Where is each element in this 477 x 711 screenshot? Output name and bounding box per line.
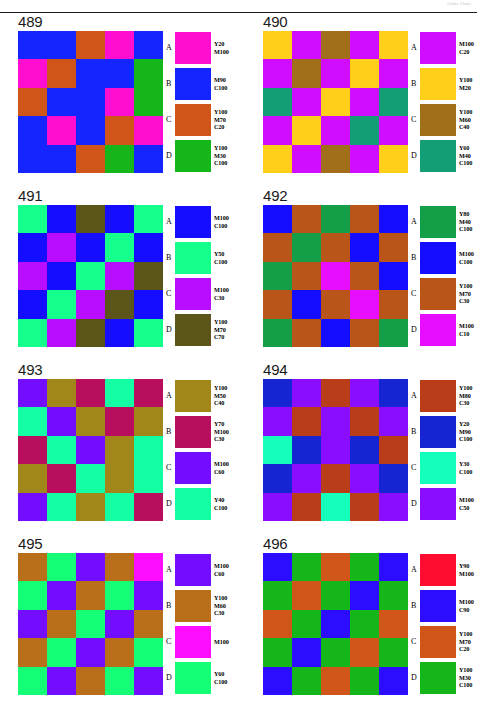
matrix-cell <box>134 553 163 581</box>
legend-ink-values: M90 C100 <box>211 76 232 91</box>
matrix-cell <box>350 436 379 464</box>
legend-ink-values: Y100 M20 <box>456 76 477 91</box>
matrix-cell <box>76 233 105 261</box>
matrix-cell <box>47 610 76 638</box>
panel-number: 496 <box>263 536 287 551</box>
matrix-cell <box>18 581 47 609</box>
matrix-cell <box>379 581 408 609</box>
legend-row-C: CY100 M60 C40 <box>411 103 477 136</box>
legend-swatch <box>420 32 456 64</box>
matrix-cell <box>47 205 76 233</box>
matrix-cell <box>47 88 76 116</box>
legend-swatch <box>175 206 211 238</box>
matrix-cell <box>134 667 163 695</box>
legend-letter: B <box>411 602 420 610</box>
matrix-cell <box>379 262 408 290</box>
legend-letter: A <box>411 44 420 52</box>
matrix-cell <box>134 319 163 347</box>
matrix-cell <box>321 638 350 666</box>
legend-swatch <box>175 68 211 100</box>
legend-ink-values: M100 C100 <box>211 214 232 229</box>
color-panel-494: 494AY100 M80 C30BY20 M90 C100CY30 C100DM… <box>245 362 477 536</box>
matrix-cell <box>321 610 350 638</box>
swatch-legend: AY100 M50 C40BY70 M100 C30CM100 C60DY40 … <box>166 379 232 521</box>
matrix-cell <box>350 205 379 233</box>
legend-swatch <box>175 140 211 172</box>
matrix-cell <box>321 145 350 173</box>
matrix-cell <box>263 59 292 87</box>
matrix-cell <box>105 116 134 144</box>
legend-row-B: BM100 C100 <box>411 241 477 274</box>
matrix-cell <box>76 581 105 609</box>
legend-ink-values: Y30 C100 <box>456 460 477 475</box>
matrix-cell <box>18 493 47 521</box>
matrix-cell <box>47 553 76 581</box>
matrix-cell <box>134 436 163 464</box>
legend-letter: D <box>411 500 420 508</box>
matrix-cell <box>263 379 292 407</box>
matrix-cell <box>105 88 134 116</box>
matrix-cell <box>134 59 163 87</box>
matrix-cell <box>134 88 163 116</box>
matrix-cell <box>321 407 350 435</box>
legend-letter: C <box>166 638 175 646</box>
matrix-cell <box>263 233 292 261</box>
legend-ink-values: M100 C60 <box>211 460 232 475</box>
matrix-cell <box>292 145 321 173</box>
matrix-cell <box>76 667 105 695</box>
matrix-cell <box>47 290 76 318</box>
page-header: Color Chart <box>0 0 477 14</box>
legend-ink-values: Y100 M70 C30 <box>456 282 477 304</box>
matrix-cell <box>292 116 321 144</box>
matrix-cell <box>47 262 76 290</box>
matrix-cell <box>76 31 105 59</box>
color-matrix <box>263 205 408 347</box>
matrix-cell <box>379 116 408 144</box>
legend-row-B: BY70 M100 C30 <box>166 415 232 448</box>
legend-letter: B <box>166 428 175 436</box>
matrix-cell <box>263 667 292 695</box>
legend-swatch <box>420 278 456 310</box>
matrix-cell <box>18 145 47 173</box>
legend-ink-values: M100 C30 <box>211 286 232 301</box>
matrix-cell <box>18 464 47 492</box>
matrix-cell <box>379 379 408 407</box>
matrix-cell <box>105 262 134 290</box>
matrix-cell <box>321 436 350 464</box>
matrix-cell <box>350 667 379 695</box>
swatch-legend: AM100 C60BY100 M60 C30CM100DY60 C100 <box>166 553 232 695</box>
matrix-cell <box>105 667 134 695</box>
legend-swatch <box>420 380 456 412</box>
legend-row-A: AY20 M100 <box>166 31 232 64</box>
matrix-cell <box>379 88 408 116</box>
color-matrix <box>18 553 163 695</box>
matrix-cell <box>263 145 292 173</box>
matrix-cell <box>263 493 292 521</box>
color-matrix <box>263 31 408 173</box>
legend-ink-values: Y100 M70 C20 <box>211 108 232 130</box>
matrix-cell <box>134 116 163 144</box>
matrix-cell <box>76 116 105 144</box>
swatch-legend: AM100 C100BY50 C100CM100 C30DY100 M70 C7… <box>166 205 232 347</box>
legend-row-A: AY100 M50 C40 <box>166 379 232 412</box>
matrix-cell <box>292 379 321 407</box>
color-matrix <box>263 553 408 695</box>
legend-row-A: AM100 C20 <box>411 31 477 64</box>
matrix-cell <box>379 638 408 666</box>
matrix-cell <box>47 407 76 435</box>
matrix-cell <box>134 205 163 233</box>
legend-swatch <box>175 380 211 412</box>
matrix-cell <box>263 262 292 290</box>
swatch-legend: AY100 M80 C30BY20 M90 C100CY30 C100DM100… <box>411 379 477 521</box>
matrix-cell <box>76 553 105 581</box>
legend-letter: C <box>411 290 420 298</box>
legend-ink-values: Y100 M80 C30 <box>456 384 477 406</box>
matrix-cell <box>350 610 379 638</box>
color-panel-496: 496AY90 M100BM100 C90CY100 M70 C20DY100 … <box>245 536 477 710</box>
matrix-cell <box>134 581 163 609</box>
matrix-cell <box>350 262 379 290</box>
matrix-cell <box>292 319 321 347</box>
legend-row-C: CY100 M70 C20 <box>411 625 477 658</box>
legend-swatch <box>175 416 211 448</box>
matrix-cell <box>47 31 76 59</box>
